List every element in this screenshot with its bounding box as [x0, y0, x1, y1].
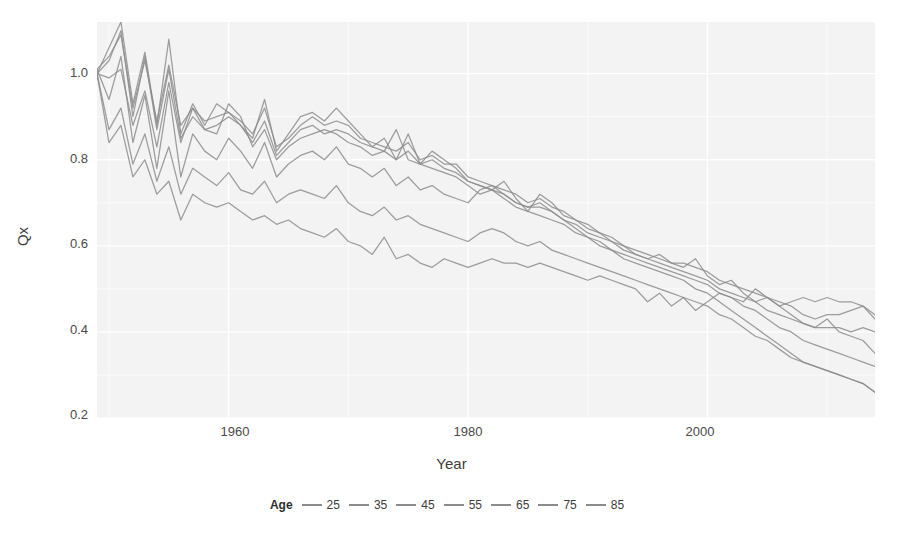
plot-panel: [97, 22, 875, 418]
series-line-45: [97, 31, 875, 332]
legend-item-85[interactable]: 85: [586, 498, 624, 512]
legend-label: 35: [374, 498, 387, 512]
x-axis-title: Year: [0, 455, 903, 472]
legend-item-25[interactable]: 25: [302, 498, 340, 512]
legend-label: 75: [563, 498, 576, 512]
y-tick-label-0: 0.2: [48, 407, 88, 422]
legend-item-65[interactable]: 65: [491, 498, 529, 512]
legend-label: 55: [469, 498, 482, 512]
legend-key-icon: [349, 504, 369, 506]
y-tick-label-1: 0.4: [48, 322, 88, 337]
legend-key-icon: [491, 504, 511, 506]
legend-label: 85: [611, 498, 624, 512]
series-line-55: [97, 69, 875, 366]
legend-items: 25354555657585: [302, 498, 634, 512]
legend-key-icon: [586, 504, 606, 506]
series-line-35: [97, 35, 875, 319]
legend-key-icon: [302, 504, 322, 506]
x-tick-label-1: 1980: [438, 424, 498, 439]
x-tick-label-0: 1960: [205, 424, 265, 439]
plot-lines-svg: [97, 22, 875, 418]
y-tick-label-3: 0.8: [48, 151, 88, 166]
legend-label: 65: [516, 498, 529, 512]
y-tick-label-2: 0.6: [48, 236, 88, 251]
series-line-75: [97, 74, 875, 393]
legend-item-55[interactable]: 55: [444, 498, 482, 512]
legend-key-icon: [538, 504, 558, 506]
legend-key-icon: [396, 504, 416, 506]
legend-label: 25: [327, 498, 340, 512]
series-line-85: [97, 74, 875, 319]
series-line-65: [97, 56, 875, 392]
legend-item-35[interactable]: 35: [349, 498, 387, 512]
legend-title: Age: [270, 498, 293, 512]
legend: Age 25354555657585: [0, 492, 903, 518]
y-tick-label-4: 1.0: [48, 65, 88, 80]
x-tick-label-2: 2000: [670, 424, 730, 439]
legend-item-75[interactable]: 75: [538, 498, 576, 512]
y-axis-title: Qx: [14, 207, 31, 267]
legend-item-45[interactable]: 45: [396, 498, 434, 512]
legend-label: 45: [421, 498, 434, 512]
chart-figure: Qx 0.2 0.4 0.6 0.8 1.0 1960 1980 2000 Ye…: [0, 0, 903, 535]
legend-key-icon: [444, 504, 464, 506]
